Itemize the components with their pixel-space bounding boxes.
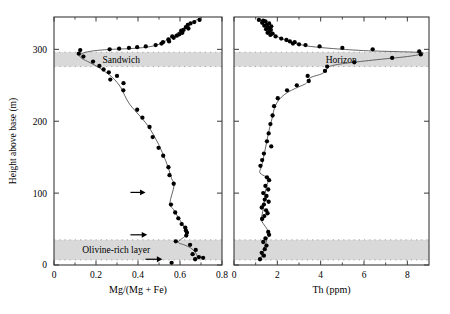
data-point [172, 182, 176, 186]
data-point [184, 233, 188, 237]
y-tick-label: 0 [42, 260, 47, 270]
data-point [262, 151, 266, 155]
data-point [201, 256, 205, 260]
arrow-head [142, 232, 148, 238]
data-point [172, 36, 176, 40]
x-tick-label: 0 [52, 270, 57, 280]
data-point [135, 108, 139, 112]
x-tick-label: 6 [362, 270, 367, 280]
data-point [117, 46, 121, 50]
data-point [297, 42, 301, 46]
data-point [156, 146, 160, 150]
data-point [303, 43, 307, 47]
data-point [307, 79, 311, 83]
data-point [306, 74, 310, 78]
x-tick-label: 2 [275, 270, 280, 280]
data-point [258, 164, 262, 168]
data-point [285, 88, 289, 92]
data-point [340, 46, 344, 50]
data-point [276, 96, 280, 100]
data-point [101, 67, 105, 71]
data-point [91, 59, 95, 63]
data-point [188, 243, 192, 247]
data-point [268, 122, 272, 126]
data-point [166, 165, 170, 169]
data-point [390, 56, 394, 60]
data-point [263, 197, 267, 201]
data-point [121, 81, 125, 85]
data-point [169, 261, 173, 265]
data-point [258, 257, 262, 261]
data-point [81, 54, 85, 58]
data-point [173, 210, 177, 214]
data-point [268, 33, 272, 37]
data-point [291, 41, 295, 45]
data-point [263, 236, 267, 240]
data-point [263, 184, 267, 188]
x-tick-label: 8 [405, 270, 410, 280]
band-label-horizon: Horizon [326, 55, 357, 65]
data-point [151, 135, 155, 139]
data-point [279, 36, 283, 40]
data-point [193, 257, 197, 261]
data-point [159, 41, 163, 45]
data-point [186, 26, 190, 30]
data-point [257, 18, 261, 22]
x-tick-label: 0.2 [90, 270, 102, 280]
data-point [176, 216, 180, 220]
data-point [267, 131, 271, 135]
data-point [270, 113, 274, 117]
data-point [180, 222, 184, 226]
data-point [263, 247, 267, 251]
data-point [197, 255, 201, 259]
data-point [167, 173, 171, 177]
data-point [140, 115, 144, 119]
data-point [371, 47, 375, 51]
data-point [135, 45, 139, 49]
data-point [295, 83, 299, 87]
x-axis-title-mg-number-profile: Mg/(Mg + Fe) [109, 284, 167, 296]
data-point [266, 187, 270, 191]
data-point [108, 77, 112, 81]
arrow-head [140, 189, 146, 195]
data-point [121, 88, 125, 92]
data-point [194, 248, 198, 252]
data-point [127, 46, 131, 50]
data-point [161, 154, 165, 158]
data-point [147, 125, 151, 129]
arrow-42m [130, 232, 147, 238]
data-point [273, 34, 277, 38]
data-point [323, 69, 327, 73]
data-point [260, 158, 264, 162]
data-point [107, 70, 111, 74]
data-point [190, 252, 194, 256]
data-point [144, 44, 148, 48]
band-label-olivine: Olivine-rich layer [82, 245, 151, 255]
data-point [192, 20, 196, 24]
scientific-figure: SandwichOlivine-rich layer00.20.40.60.8M… [0, 0, 450, 314]
data-point [325, 64, 329, 68]
x-tick-label: 0.4 [132, 270, 144, 280]
data-point [169, 202, 173, 206]
data-point [261, 240, 265, 244]
data-point [267, 200, 271, 204]
x-tick-label: 4 [318, 270, 323, 280]
data-point [115, 74, 119, 78]
data-point [153, 43, 157, 47]
band-label-sandwich: Sandwich [102, 55, 140, 65]
x-axis-title-thorium-profile: Th (ppm) [312, 284, 350, 296]
data-point [267, 178, 271, 182]
data-point [317, 44, 321, 48]
data-point [272, 104, 276, 108]
x-tick-label: 0.6 [174, 270, 186, 280]
data-point [262, 254, 266, 258]
data-point [167, 39, 171, 43]
arrow-100m [130, 189, 145, 195]
data-point [267, 233, 271, 237]
data-point [260, 217, 264, 221]
data-point [261, 191, 265, 195]
data-point [97, 64, 101, 68]
data-point [265, 211, 269, 215]
data-point [269, 144, 273, 148]
data-point [77, 52, 81, 56]
